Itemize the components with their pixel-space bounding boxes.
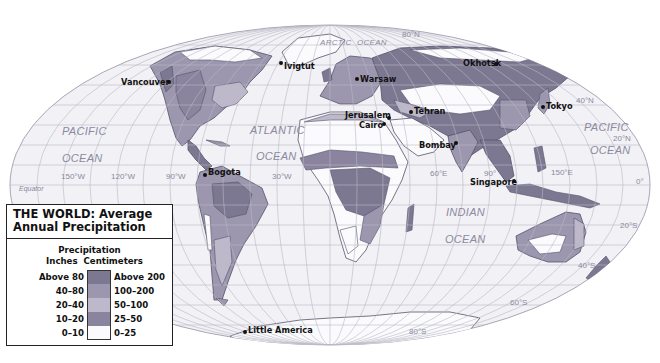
legend-cm: Above 200 [111, 272, 165, 282]
legend-row-above-80: Above 80 Above 200 [7, 270, 172, 284]
city-label-bombay: Bombay [419, 140, 457, 150]
legend-inches: 20–40 [7, 300, 87, 310]
ocean-label-atlantic: ATLANTIC [249, 124, 305, 136]
map-legend: THE WORLD: Average Annual Precipitation … [6, 204, 173, 346]
city-dot-warsaw [355, 77, 359, 81]
legend-heading: Precipitation [7, 245, 172, 256]
legend-inches: Above 80 [7, 272, 87, 282]
legend-col-inches: Inches [46, 256, 77, 266]
legend-row-10-20: 10–20 25–50 [7, 312, 172, 326]
legend-title-line-2: Annual Precipitation [13, 221, 166, 234]
city-label-vancouver: Vancouver [121, 77, 170, 87]
legend-swatch [87, 298, 111, 312]
ocean-label-pacific-east: PACIFIC [584, 121, 629, 133]
legend-inches: 0–10 [7, 328, 87, 338]
grid-label: 40°S [578, 261, 595, 270]
city-label-singapore: Singapore [470, 177, 517, 187]
city-dot-tehran [409, 110, 413, 114]
city-label-bogota: Bogota [208, 167, 241, 177]
legend-cm: 25–50 [111, 314, 142, 324]
grid-label: 80°N [402, 30, 420, 39]
grid-label: 60°E [430, 169, 447, 178]
legend-cm: 50–100 [111, 300, 148, 310]
city-label-ivigtut: Ivigtut [284, 61, 315, 71]
ocean-label-pacific-west-2: OCEAN [62, 152, 103, 164]
city-dot-bogota [203, 173, 207, 177]
legend-swatch [87, 270, 111, 284]
grid-label: 40°N [576, 96, 594, 105]
ocean-label-atlantic-2: OCEAN [256, 150, 297, 162]
ocean-label-indian-2: OCEAN [445, 233, 486, 245]
grid-label: 150°E [551, 168, 573, 177]
grid-label: 20°N [613, 134, 631, 143]
legend-row-0-10: 0–10 0–25 [7, 326, 172, 340]
city-dot-little-america [243, 330, 247, 334]
grid-label: 150°W [61, 172, 86, 181]
equator-label: Equator [19, 185, 44, 193]
grid-label: 0° [636, 177, 644, 186]
grid-label: 90°W [166, 172, 186, 181]
legend-col-cm: Centimeters [84, 256, 143, 266]
legend-cm: 100–200 [111, 286, 154, 296]
city-label-cairo: Cairo [359, 120, 383, 130]
grid-label: 80°S [409, 327, 426, 336]
grid-label: 20°S [620, 221, 637, 230]
city-dot-tokyo [541, 105, 545, 109]
city-label-little-america: Little America [248, 325, 313, 335]
city-label-tehran: Tehran [414, 106, 445, 116]
ocean-label-pacific-west: PACIFIC [62, 125, 107, 137]
legend-rows: Above 80 Above 200 40–80 100–200 20–40 5… [7, 270, 172, 340]
legend-column-headers: Inches Centimeters [7, 256, 172, 266]
city-label-jerusalem: Jerusalem [344, 110, 391, 120]
legend-row-40-80: 40–80 100–200 [7, 284, 172, 298]
ocean-label-indian: INDIAN [446, 206, 485, 218]
legend-title: THE WORLD: Average Annual Precipitation [7, 205, 172, 239]
grid-label: 120°W [111, 172, 136, 181]
city-label-okhotsk: Okhotsk [463, 58, 502, 68]
city-label-tokyo: Tokyo [546, 101, 573, 111]
legend-swatch [87, 312, 111, 326]
legend-inches: 40–80 [7, 286, 87, 296]
ocean-label-pacific-east-2: OCEAN [590, 144, 631, 156]
ocean-label-arctic: ARCTIC [319, 38, 352, 47]
legend-row-20-40: 20–40 50–100 [7, 298, 172, 312]
legend-inches: 10–20 [7, 314, 87, 324]
grid-label: 60°S [510, 298, 527, 307]
legend-swatch [87, 326, 111, 340]
legend-swatch [87, 284, 111, 298]
grid-label: 30°W [272, 172, 292, 181]
city-dot-ivigtut [279, 61, 283, 65]
legend-cm: 0–25 [111, 328, 136, 338]
city-label-warsaw: Warsaw [360, 74, 397, 84]
ocean-label-arctic-2: OCEAN [357, 38, 387, 47]
